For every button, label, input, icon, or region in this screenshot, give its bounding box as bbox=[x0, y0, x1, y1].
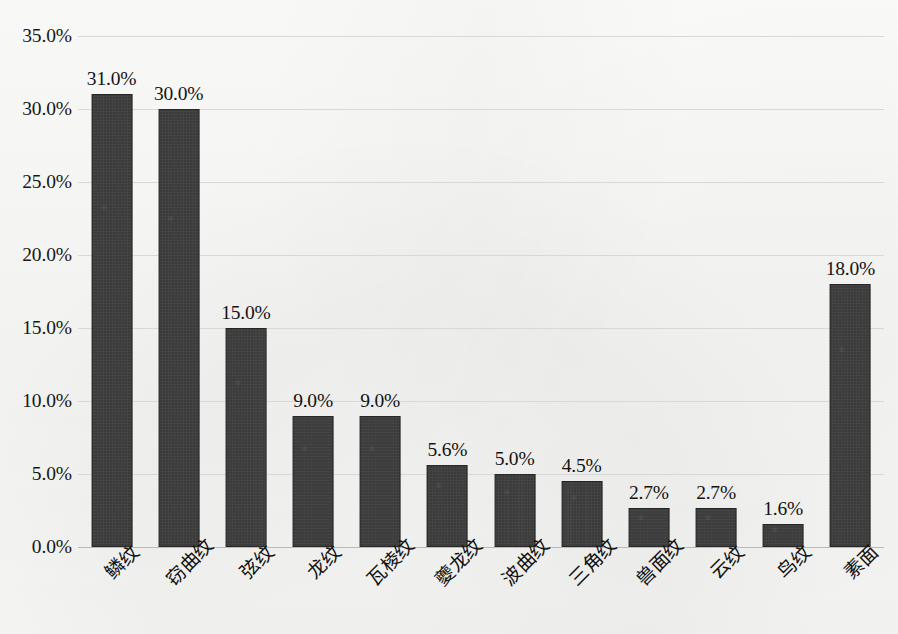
bar-value-label: 9.0% bbox=[293, 390, 333, 412]
x-axis-category-label: 兽面纹 bbox=[615, 551, 682, 578]
bar-group[interactable]: 2.7% bbox=[683, 36, 750, 547]
bar-value-label: 18.0% bbox=[826, 258, 875, 280]
bar[interactable] bbox=[360, 416, 401, 547]
bar-value-label: 30.0% bbox=[154, 83, 203, 105]
x-axis-category-label: 波曲纹 bbox=[481, 551, 548, 578]
y-axis-tick-label: 20.0% bbox=[0, 244, 72, 266]
bar-group[interactable]: 5.0% bbox=[481, 36, 548, 547]
bar-group[interactable]: 15.0% bbox=[212, 36, 279, 547]
bar-value-label: 2.7% bbox=[629, 482, 669, 504]
plot-area: 31.0%30.0%15.0%9.0%9.0%5.6%5.0%4.5%2.7%2… bbox=[78, 36, 884, 547]
x-axis-category-label: 鸟纹 bbox=[750, 551, 817, 578]
bar-value-label: 2.7% bbox=[696, 482, 736, 504]
x-axis-category-label: 三角纹 bbox=[548, 551, 615, 578]
y-axis-tick-label: 0.0% bbox=[0, 536, 72, 558]
bar[interactable] bbox=[830, 284, 871, 547]
bar[interactable] bbox=[293, 416, 334, 547]
bar-group[interactable]: 4.5% bbox=[548, 36, 615, 547]
y-axis-tick-label: 25.0% bbox=[0, 171, 72, 193]
x-axis-category-label: 夔龙纹 bbox=[414, 551, 481, 578]
x-axis-category-label: 云纹 bbox=[683, 551, 750, 578]
bar-group[interactable]: 30.0% bbox=[145, 36, 212, 547]
y-axis-tick-label: 35.0% bbox=[0, 25, 72, 47]
bar-chart-figure: 0.0%5.0%10.0%15.0%20.0%25.0%30.0%35.0% 3… bbox=[0, 0, 898, 634]
bar-value-label: 1.6% bbox=[763, 498, 803, 520]
bar-group[interactable]: 1.6% bbox=[750, 36, 817, 547]
bar-group[interactable]: 18.0% bbox=[817, 36, 884, 547]
x-axis-category-label: 素面 bbox=[817, 551, 884, 578]
bar-value-label: 5.6% bbox=[427, 439, 467, 461]
bar-series: 31.0%30.0%15.0%9.0%9.0%5.6%5.0%4.5%2.7%2… bbox=[78, 36, 884, 547]
bar[interactable] bbox=[158, 109, 199, 547]
bar-value-label: 9.0% bbox=[360, 390, 400, 412]
bar[interactable] bbox=[225, 328, 266, 547]
bar-value-label: 31.0% bbox=[87, 68, 136, 90]
x-axis-category-label: 龙纹 bbox=[280, 551, 347, 578]
x-axis: 鳞纹窃曲纹弦纹龙纹瓦棱纹夔龙纹波曲纹三角纹兽面纹云纹鸟纹素面 bbox=[78, 551, 884, 634]
bar[interactable] bbox=[91, 94, 132, 547]
bar-value-label: 5.0% bbox=[495, 448, 535, 470]
bar-value-label: 4.5% bbox=[562, 455, 602, 477]
bar-group[interactable]: 9.0% bbox=[280, 36, 347, 547]
bar-group[interactable]: 9.0% bbox=[347, 36, 414, 547]
bar-group[interactable]: 2.7% bbox=[615, 36, 682, 547]
y-axis-tick-label: 15.0% bbox=[0, 317, 72, 339]
bar-value-label: 15.0% bbox=[221, 302, 270, 324]
bar-group[interactable]: 5.6% bbox=[414, 36, 481, 547]
x-axis-category-label: 窃曲纹 bbox=[145, 551, 212, 578]
y-axis-tick-label: 5.0% bbox=[0, 463, 72, 485]
y-axis-tick-label: 30.0% bbox=[0, 98, 72, 120]
x-axis-category-label: 弦纹 bbox=[212, 551, 279, 578]
x-axis-category-label: 鳞纹 bbox=[78, 551, 145, 578]
y-axis: 0.0%5.0%10.0%15.0%20.0%25.0%30.0%35.0% bbox=[0, 0, 72, 634]
y-axis-tick-label: 10.0% bbox=[0, 390, 72, 412]
x-axis-category-label: 瓦棱纹 bbox=[347, 551, 414, 578]
bar[interactable] bbox=[427, 465, 468, 547]
bar-group[interactable]: 31.0% bbox=[78, 36, 145, 547]
